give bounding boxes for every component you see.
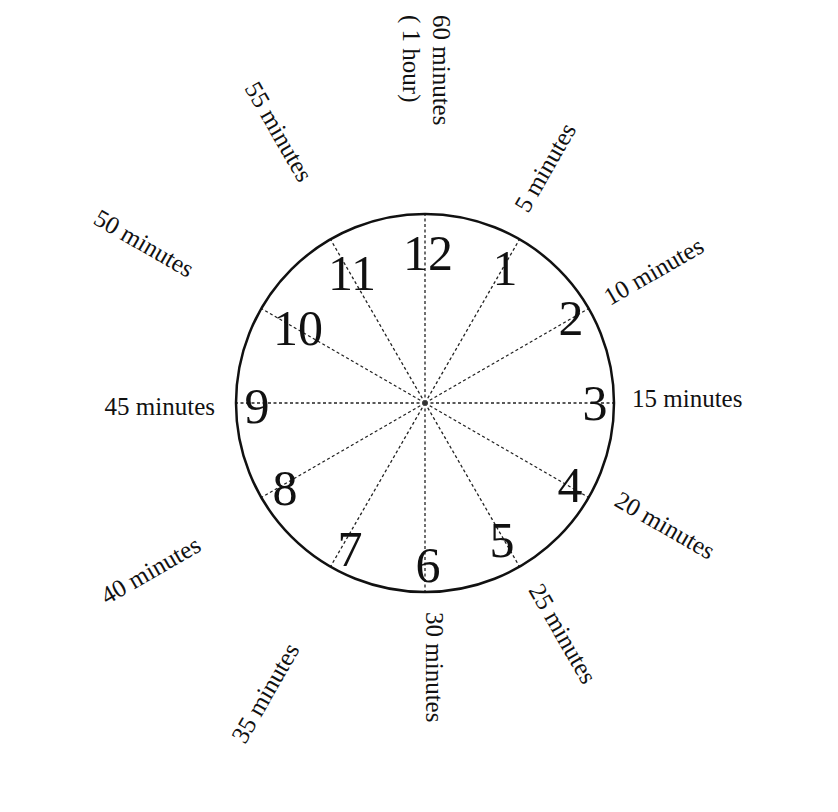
clock-center-dot [423, 401, 427, 405]
minute-label: ( 1 hour) [397, 15, 425, 102]
minute-label: 50 minutes [90, 204, 199, 283]
minute-label: 15 minutes [632, 385, 742, 412]
hour-number: 3 [583, 375, 608, 431]
minute-label: 30 minutes [421, 612, 448, 722]
hour-number: 5 [490, 512, 515, 568]
minute-label: 40 minutes [96, 531, 205, 610]
hour-number: 8 [273, 460, 298, 516]
minute-label: 55 minutes [240, 77, 319, 186]
minute-label: 60 minutes [428, 15, 455, 125]
hour-number: 1 [493, 240, 518, 296]
clock-diagram: 121234567891011 60 minutes( 1 hour)5 min… [0, 0, 838, 812]
minute-label: 45 minutes [105, 393, 215, 420]
minute-labels: 60 minutes( 1 hour)5 minutes10 minutes15… [90, 15, 743, 748]
minute-label: 20 minutes [611, 486, 720, 565]
hour-number: 12 [403, 225, 453, 281]
hour-number: 10 [273, 300, 323, 356]
minute-label: 5 minutes [509, 118, 581, 216]
minute-label: 25 minutes [524, 579, 603, 688]
hour-number: 4 [558, 457, 583, 513]
hour-numbers: 121234567891011 [245, 225, 608, 593]
minute-label: 10 minutes [599, 232, 708, 311]
hour-number: 6 [416, 537, 441, 593]
hour-number: 2 [559, 290, 584, 346]
hour-number: 11 [328, 245, 376, 301]
hour-number: 7 [338, 521, 363, 577]
minute-label: 35 minutes [226, 638, 305, 747]
hour-number: 9 [245, 378, 270, 434]
